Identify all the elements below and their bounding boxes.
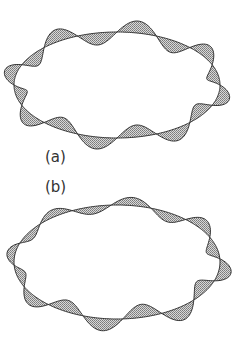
panel-b-mode-shape	[7, 197, 231, 330]
panel-a-mode-shape	[4, 21, 229, 149]
shaded-displacement-region	[4, 21, 229, 149]
panel-a-label: (a)	[45, 148, 66, 166]
perturbed-curve	[7, 197, 231, 330]
oscillation-modes-diagram	[0, 0, 238, 351]
equilibrium-ellipse	[14, 205, 220, 319]
panel-b-label: (b)	[45, 178, 66, 196]
perturbed-curve	[4, 21, 229, 149]
